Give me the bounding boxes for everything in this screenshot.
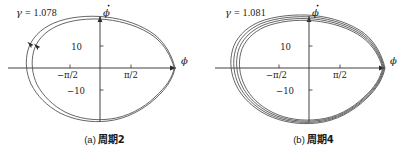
x-tick-label-neg-a: −π/2 <box>57 70 78 80</box>
panel-a: γ = 1.078 <box>0 0 209 150</box>
plot-area-b: ϕ ϕ −π/2 π/2 10 −10 <box>209 0 418 128</box>
caption-text-b: 周期4 <box>307 134 334 145</box>
orbit-curves-b <box>231 15 385 124</box>
y-tick-label-neg-b: −10 <box>276 86 294 96</box>
caption-text-a: 周期2 <box>98 134 125 145</box>
caption-index-b: (b) <box>293 134 305 145</box>
y-axis-label-a: ϕ <box>103 5 110 18</box>
orbit-4-b <box>239 20 382 120</box>
orbit-inner-a <box>32 19 174 120</box>
plot-area-a: ϕ ϕ −π/2 π/2 10 −10 <box>0 0 209 128</box>
caption-index-a: (a) <box>84 134 96 145</box>
panel-b: γ = 1.081 <box>209 0 418 150</box>
orbit-3-b <box>237 18 384 121</box>
x-tick-label-pos-b: π/2 <box>333 70 347 80</box>
x-tick-label-neg-b: −π/2 <box>266 70 287 80</box>
y-tick-label-pos-b: 10 <box>280 42 291 52</box>
y-tick-label-pos-a: 10 <box>71 42 82 52</box>
x-axis-label-b: ϕ <box>390 55 397 66</box>
y-axis-label-b: ϕ <box>312 5 319 18</box>
orbit-curves-a <box>26 16 175 121</box>
caption-b: (b)周期4 <box>209 131 418 146</box>
figure-container: γ = 1.078 <box>0 0 418 150</box>
orbit-1-b <box>231 15 385 124</box>
x-axis-label-a: ϕ <box>181 55 188 66</box>
svg-text:ϕ: ϕ <box>312 7 319 18</box>
y-tick-label-neg-a: −10 <box>67 86 85 96</box>
svg-text:ϕ: ϕ <box>103 7 110 18</box>
caption-a: (a)周期2 <box>0 131 209 146</box>
x-tick-label-pos-a: π/2 <box>124 70 138 80</box>
orbit-outer-a <box>26 16 175 121</box>
